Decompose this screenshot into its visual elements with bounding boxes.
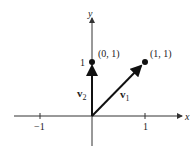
- vector-v1: v1: [92, 66, 141, 116]
- y-axis-label: y: [87, 8, 93, 19]
- y-tick-label-1: 1: [80, 57, 85, 68]
- x-tick-label-neg1: −1: [34, 121, 45, 132]
- x-axis: x −1 1: [14, 111, 190, 132]
- point-1-1-label: (1, 1): [150, 48, 172, 60]
- x-axis-label: x: [184, 111, 190, 122]
- vector-v2: v2: [77, 66, 92, 116]
- point-1-1: (1, 1): [142, 48, 172, 65]
- vector-diagram: x −1 1 y 1 v2 v1 (0, 1) (1, 1): [0, 0, 196, 149]
- point-0-1: (0, 1): [89, 48, 120, 65]
- point-0-1-label: (0, 1): [98, 48, 120, 60]
- vector-v2-label: v2: [77, 87, 87, 102]
- vector-v1-label: v1: [120, 88, 130, 103]
- x-tick-label-1: 1: [143, 121, 148, 132]
